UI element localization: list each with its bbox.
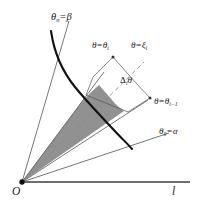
- theta-0-symbol: θ: [159, 126, 164, 136]
- label-delta-i-theta: Δiθ: [120, 76, 132, 85]
- leader-line-theta-i: [93, 57, 113, 77]
- origin-point: [19, 179, 24, 184]
- label-xi-i: θ=ξi: [131, 41, 147, 50]
- theta-n-subscript: n: [56, 16, 59, 23]
- theta-i-subscript: i: [107, 45, 109, 51]
- delta-subscript: i: [126, 80, 128, 86]
- theta-0-subscript: 0: [164, 131, 167, 137]
- label-initial-line: l: [172, 186, 175, 198]
- theta-i-symbol: θ: [92, 40, 97, 50]
- label-origin: O: [12, 186, 20, 198]
- theta-i-minus-1-subscript: i−1: [169, 101, 177, 107]
- delta-theta-symbol: θ: [128, 75, 133, 85]
- theta-n-value: β: [67, 11, 72, 22]
- polar-sector-diagram: θn=β θ=θi θ=ξi Δiθ θ=θi−1 θ0=α O l: [0, 0, 203, 209]
- xi-i-theta-symbol: θ: [131, 40, 136, 50]
- leader-line-bracket-lower: [128, 98, 150, 112]
- theta-n-equals: =: [59, 11, 66, 22]
- label-theta-i: θ=θi: [92, 41, 109, 50]
- theta-0-value: α: [173, 126, 178, 136]
- leader-line-theta-i-minus-1: [136, 83, 150, 98]
- leader-dot-theta-i-minus-1: [149, 97, 152, 100]
- label-theta-i-minus-1: θ=θi−1: [154, 97, 178, 106]
- theta-i-minus-1-symbol: θ: [154, 96, 159, 106]
- label-theta-0-alpha: θ0=α: [159, 127, 177, 136]
- label-theta-n-beta: θn=β: [51, 12, 72, 23]
- leader-dot-theta-i: [112, 56, 115, 59]
- xi-i-subscript: i: [146, 45, 148, 51]
- shaded-sector-region: [22, 85, 124, 182]
